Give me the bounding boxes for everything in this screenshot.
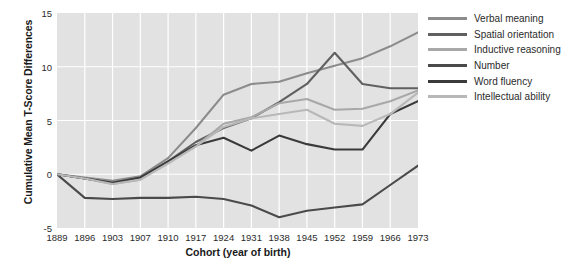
legend-item[interactable]: Intellectual ability [428, 89, 574, 105]
x-tick-label: 1952 [324, 232, 345, 243]
x-tick-label: 1910 [157, 232, 178, 243]
y-tick-label: 10 [26, 61, 52, 72]
series-line [57, 93, 418, 184]
plot-area [57, 13, 418, 228]
x-tick-label: 1931 [241, 232, 262, 243]
x-tick-label: 1903 [102, 232, 123, 243]
y-axis-tick-labels: 151050-5 [22, 0, 52, 271]
y-tick-label: 0 [26, 169, 52, 180]
chart-figure: Cumulative Mean T-Score Differences 1510… [0, 0, 575, 271]
series-lines [57, 32, 418, 217]
x-tick-label: 1924 [213, 232, 234, 243]
legend-color-swatch-icon [428, 64, 467, 67]
legend-color-swatch-icon [428, 95, 467, 98]
legend-item[interactable]: Spatial orientation [428, 27, 574, 43]
legend-item[interactable]: Inductive reasoning [428, 42, 574, 58]
legend-color-swatch-icon [428, 33, 467, 36]
x-axis-label: Cohort (year of birth) [57, 246, 419, 258]
y-tick-label: 5 [26, 115, 52, 126]
legend-item-label: Number [474, 60, 510, 71]
legend-item-label: Intellectual ability [474, 91, 550, 102]
chart-legend: Verbal meaningSpatial orientationInducti… [428, 11, 574, 105]
series-line [57, 166, 418, 218]
legend-item-label: Spatial orientation [474, 29, 554, 40]
series-line [57, 32, 418, 180]
series-line [57, 53, 418, 183]
legend-item-label: Verbal meaning [474, 13, 544, 24]
legend-color-swatch-icon [428, 80, 467, 83]
x-tick-label: 1959 [352, 232, 373, 243]
plot-svg [57, 13, 418, 228]
x-tick-label: 1966 [380, 232, 401, 243]
x-tick-label: 1907 [130, 232, 151, 243]
x-tick-label: 1917 [185, 232, 206, 243]
legend-item-label: Inductive reasoning [474, 44, 561, 55]
y-tick-label: 15 [26, 8, 52, 19]
x-tick-label: 1889 [46, 232, 67, 243]
legend-color-swatch-icon [428, 48, 467, 51]
legend-item[interactable]: Verbal meaning [428, 11, 574, 27]
x-tick-label: 1938 [269, 232, 290, 243]
x-tick-label: 1896 [74, 232, 95, 243]
legend-item[interactable]: Word fluency [428, 73, 574, 89]
legend-item-label: Word fluency [474, 76, 532, 87]
x-tick-label: 1973 [407, 232, 428, 243]
series-line [57, 90, 418, 184]
x-tick-label: 1945 [296, 232, 317, 243]
series-line [57, 101, 418, 183]
legend-item[interactable]: Number [428, 58, 574, 74]
legend-color-swatch-icon [428, 17, 467, 20]
